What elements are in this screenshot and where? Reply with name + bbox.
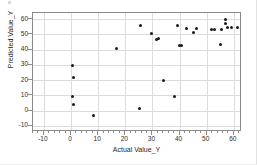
- x-minor-tick: [97, 131, 98, 133]
- y-tick-mark: [28, 49, 32, 50]
- x-tick-label: -10: [30, 135, 56, 143]
- data-point: [162, 79, 165, 82]
- y-tick-mark: [28, 110, 32, 111]
- y-tick-mark: [28, 125, 32, 126]
- x-minor-tick: [124, 131, 125, 133]
- x-minor-tick: [217, 131, 218, 133]
- gridline-horizontal: [33, 111, 240, 112]
- x-minor-tick: [227, 131, 228, 133]
- y-tick-label: 10: [4, 91, 28, 98]
- x-minor-tick: [173, 131, 174, 133]
- x-minor-tick: [195, 131, 196, 133]
- gridline-vertical: [44, 13, 45, 130]
- y-tick-mark: [28, 18, 32, 19]
- gridline-horizontal: [33, 19, 240, 20]
- x-minor-tick: [211, 131, 212, 133]
- y-tick-label: 0: [4, 106, 28, 113]
- x-minor-tick: [108, 131, 109, 133]
- x-minor-tick: [81, 131, 82, 133]
- gridline-horizontal: [33, 65, 240, 66]
- data-point: [240, 61, 241, 64]
- data-point: [195, 27, 198, 30]
- x-minor-tick: [179, 131, 180, 133]
- x-minor-tick: [113, 131, 114, 133]
- gridline-vertical: [98, 13, 99, 130]
- data-point: [185, 27, 188, 30]
- x-minor-tick: [70, 131, 71, 133]
- x-minor-tick: [119, 131, 120, 133]
- data-point: [71, 95, 74, 98]
- x-tick-label: 60: [220, 135, 246, 143]
- gridline-vertical: [180, 13, 181, 130]
- x-minor-tick: [168, 131, 169, 133]
- x-minor-tick: [189, 131, 190, 133]
- x-tick-label: 30: [138, 135, 164, 143]
- x-tick-label: 40: [166, 135, 192, 143]
- x-tick-label: 0: [57, 135, 83, 143]
- data-point: [157, 37, 160, 40]
- x-minor-tick: [135, 131, 136, 133]
- data-point: [72, 103, 75, 106]
- y-tick-mark: [28, 33, 32, 34]
- x-minor-tick: [151, 131, 152, 133]
- x-minor-tick: [54, 131, 55, 133]
- data-point: [180, 44, 183, 47]
- y-tick-label: -10: [4, 121, 28, 128]
- x-tick-label: 20: [111, 135, 137, 143]
- x-minor-tick: [75, 131, 76, 133]
- gridline-vertical: [71, 13, 72, 130]
- x-minor-tick: [103, 131, 104, 133]
- gridline-vertical: [207, 13, 208, 130]
- chart-screenshot: -100102030405060 -100102030405060 Actual…: [0, 0, 257, 165]
- data-point: [220, 28, 223, 31]
- gridline-horizontal: [33, 50, 240, 51]
- plot-area: [32, 12, 241, 131]
- x-minor-tick: [141, 131, 142, 133]
- x-minor-tick: [222, 131, 223, 133]
- gridline-horizontal: [33, 126, 240, 127]
- data-point: [224, 22, 227, 25]
- data-point: [213, 28, 216, 31]
- scatter-plot: -100102030405060 -100102030405060 Actual…: [0, 0, 257, 165]
- x-minor-tick: [92, 131, 93, 133]
- x-axis-title: Actual Value_Y: [32, 146, 241, 153]
- x-minor-tick: [32, 131, 33, 133]
- x-minor-tick: [59, 131, 60, 133]
- y-tick-mark: [28, 64, 32, 65]
- data-point: [224, 18, 227, 21]
- x-tick-label: 50: [193, 135, 219, 143]
- x-minor-tick: [233, 131, 234, 133]
- x-minor-tick: [130, 131, 131, 133]
- data-point: [173, 95, 176, 98]
- x-minor-tick: [184, 131, 185, 133]
- data-point: [150, 32, 153, 35]
- gridline-vertical: [152, 13, 153, 130]
- y-tick-label: 20: [4, 76, 28, 83]
- y-tick-mark: [28, 94, 32, 95]
- data-point: [226, 26, 229, 29]
- x-minor-tick: [162, 131, 163, 133]
- x-minor-tick: [86, 131, 87, 133]
- x-minor-tick: [48, 131, 49, 133]
- gridline-vertical: [125, 13, 126, 130]
- y-axis-title: Predicted Value_Y: [7, 4, 14, 76]
- x-minor-tick: [206, 131, 207, 133]
- data-point: [72, 76, 75, 79]
- x-minor-tick: [238, 131, 239, 133]
- x-minor-tick: [65, 131, 66, 133]
- x-minor-tick: [200, 131, 201, 133]
- x-minor-tick: [43, 131, 44, 133]
- gridline-horizontal: [33, 95, 240, 96]
- data-point: [236, 26, 239, 29]
- data-point: [92, 114, 95, 117]
- data-point: [230, 26, 233, 29]
- data-point: [126, 130, 129, 131]
- gridline-vertical: [234, 13, 235, 130]
- data-point: [139, 24, 142, 27]
- x-tick-label: 10: [84, 135, 110, 143]
- x-minor-tick: [157, 131, 158, 133]
- data-point: [219, 43, 222, 46]
- data-point: [71, 64, 74, 67]
- x-minor-tick: [146, 131, 147, 133]
- y-tick-mark: [28, 79, 32, 80]
